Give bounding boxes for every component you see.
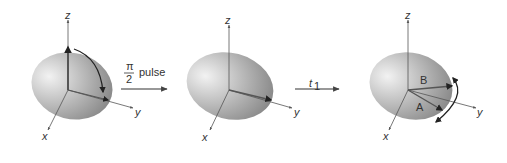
vector-a-label: A — [416, 101, 424, 113]
transition-pi-over-2-pulse: π 2 pulse — [121, 60, 167, 89]
t-label: t — [309, 77, 313, 89]
y-label: y — [134, 106, 142, 118]
t-subscript: 1 — [314, 80, 320, 92]
transition-t1: t 1 — [295, 77, 339, 92]
pulse-sequence-diagram: z y x π 2 pulse z y x t 1 B A z — [0, 0, 507, 163]
x-label: x — [201, 131, 208, 143]
panel-3: B A z y x — [362, 9, 484, 142]
x-label: x — [382, 130, 389, 142]
fraction-numerator: π — [126, 60, 134, 72]
x-label: x — [41, 130, 48, 142]
z-label: z — [64, 9, 71, 21]
panel-1: z y x — [24, 9, 142, 142]
z-label: z — [404, 9, 411, 21]
panel-2: z y x — [179, 14, 301, 143]
fraction-denominator: 2 — [126, 73, 132, 85]
z-label: z — [224, 14, 231, 26]
magnetization-ellipse — [179, 43, 281, 130]
y-label: y — [476, 106, 484, 118]
y-label: y — [293, 106, 301, 118]
pulse-label: pulse — [139, 66, 165, 78]
magnetization-ellipse — [24, 44, 120, 129]
vector-b-label: B — [420, 74, 427, 86]
